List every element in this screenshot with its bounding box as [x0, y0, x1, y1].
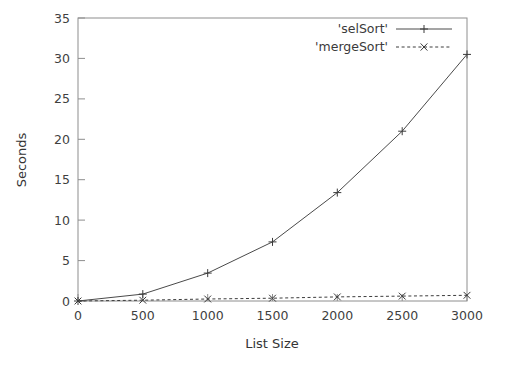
- legend-sample-selsort: [396, 25, 452, 33]
- y-tick-label-10: 10: [54, 213, 70, 228]
- chart-legend: 'selSort' 'mergeSort': [315, 21, 452, 54]
- selsort-line: [78, 54, 467, 301]
- y-tick-label-25: 25: [54, 91, 70, 106]
- legend-sample-mergesort: [396, 43, 452, 50]
- legend-label-mergesort: 'mergeSort': [315, 39, 388, 54]
- x-tick-label-0: 0: [74, 308, 82, 323]
- y-axis-ticks: [78, 18, 85, 301]
- legend-label-selsort: 'selSort': [338, 21, 388, 36]
- x-tick-label-1500: 1500: [257, 308, 289, 323]
- x-tick-label-1000: 1000: [192, 308, 224, 323]
- y-tick-label-15: 15: [54, 172, 70, 187]
- selsort-markers: [74, 50, 471, 305]
- y-tick-label-20: 20: [54, 132, 70, 147]
- selsort-point-1500: [269, 238, 277, 246]
- y-tick-label-30: 30: [54, 51, 70, 66]
- x-axis-title: List Size: [245, 336, 299, 351]
- x-tick-label-3000: 3000: [451, 308, 483, 323]
- y-tick-label-5: 5: [62, 253, 70, 268]
- y-axis-title: Seconds: [14, 132, 29, 187]
- x-tick-label-500: 500: [131, 308, 155, 323]
- chart-container: 35 30 25 20 15 10 5 0 0 500 1000 1500 20…: [0, 0, 506, 370]
- chart-plot-svg: 35 30 25 20 15 10 5 0 0 500 1000 1500 20…: [0, 0, 506, 370]
- y-tick-label-35: 35: [54, 11, 70, 26]
- selsort-point-1000: [204, 269, 212, 277]
- x-tick-label-2500: 2500: [386, 308, 418, 323]
- plot-frame: [78, 18, 467, 301]
- mergesort-markers: [75, 292, 471, 305]
- y-axis-tick-labels: 35 30 25 20 15 10 5 0: [54, 11, 70, 309]
- x-axis-tick-labels: 0 500 1000 1500 2000 2500 3000: [74, 308, 483, 323]
- series-mergesort: [75, 292, 471, 305]
- series-selsort: [74, 50, 471, 305]
- y-tick-label-0: 0: [62, 294, 70, 309]
- x-tick-label-2000: 2000: [321, 308, 353, 323]
